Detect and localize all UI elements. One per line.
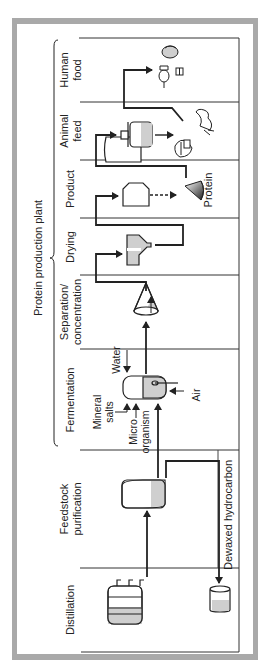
distillation-column-icon [108, 580, 144, 624]
protein-pile-icon [185, 181, 204, 200]
stage-human-food-1: Human [58, 52, 70, 87]
stage-drying: Drying [64, 231, 76, 263]
stage-labels: Human food Animal feed Product Drying Se… [58, 52, 83, 635]
food-plate-icon [162, 46, 178, 58]
stage-feedstock-1: Feedstock [58, 483, 70, 534]
stage-separation-2: concentration [71, 279, 83, 345]
feed-silo-icon [105, 122, 153, 162]
dewaxed-hydrocarbon-label: Dewaxed hydrocarbon [222, 460, 234, 570]
stage-human-food-2: food [71, 59, 83, 80]
stage-animal-feed-2: feed [71, 120, 83, 141]
plant-title: Protein production plant [32, 200, 44, 316]
plant-brace [50, 40, 58, 446]
food-bottle-icon [159, 66, 169, 88]
fermenter-icon [123, 376, 178, 399]
stage-fermentation: Fermentation [64, 368, 76, 433]
stage-distillation: Distillation [64, 585, 76, 635]
protein-label: Protein [202, 173, 214, 208]
stage-animal-feed-1: Animal [58, 114, 70, 148]
water-label: Water [110, 346, 122, 374]
hydrocarbon-tank-icon [210, 586, 230, 612]
micro-organism-label-2: organism [139, 410, 151, 453]
pig-icon [175, 140, 192, 157]
stage-product: Product [64, 170, 76, 208]
micro-organism-label-1: Micro [127, 419, 139, 445]
dryer-icon [127, 235, 151, 265]
air-label: Air [190, 388, 202, 401]
product-hopper-icon [123, 183, 149, 206]
food-box-icon [176, 68, 183, 75]
stage-grid [79, 38, 239, 652]
mineral-salts-label-2: salts [103, 401, 115, 423]
process-diagram: Protein production plant Human food Anim… [0, 0, 268, 665]
stage-feedstock-2: purification [71, 482, 83, 535]
chicken-icon [196, 109, 214, 135]
stage-separation-1: Separation/ [58, 283, 70, 340]
mineral-salts-label-1: Mineral [91, 395, 103, 429]
purification-vessel-icon [122, 480, 165, 508]
